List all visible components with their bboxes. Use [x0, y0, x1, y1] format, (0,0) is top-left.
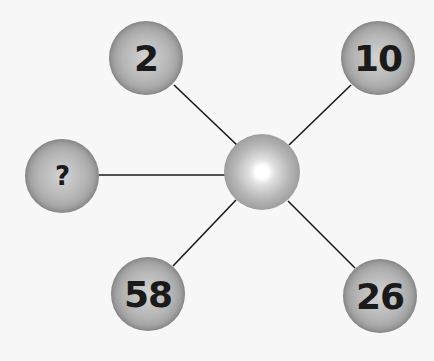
node-bottom-right: 26	[343, 259, 417, 333]
node-bottom-left: 58	[111, 257, 185, 331]
connector-bottom-right	[288, 201, 355, 268]
connector-top-left	[174, 85, 238, 146]
node-label: 58	[124, 274, 172, 315]
node-label: 26	[356, 276, 404, 317]
node-left-unknown: ?	[25, 139, 99, 213]
connector-top-right	[289, 85, 351, 145]
node-top-right: 10	[341, 21, 415, 95]
node-top-left: 2	[109, 21, 183, 95]
node-label: 10	[354, 38, 402, 79]
connector-bottom-left	[173, 200, 236, 266]
center-node	[224, 134, 300, 210]
node-label: 2	[134, 38, 158, 79]
node-label: ?	[55, 161, 69, 191]
